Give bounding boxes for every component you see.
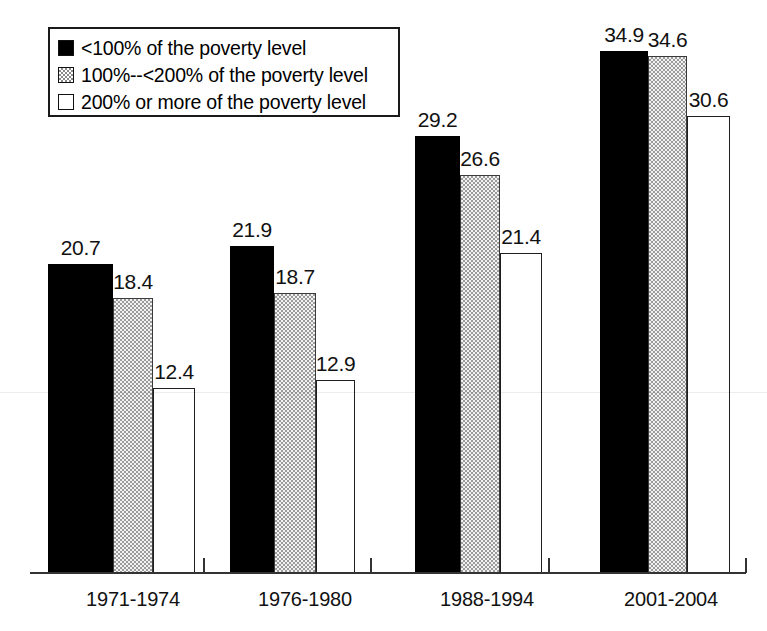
- x-axis-category-label: 1971-1974: [58, 588, 208, 610]
- bar-value-label: 12.4: [146, 361, 202, 383]
- chart-legend: <100% of the poverty level 100%--<200% o…: [48, 27, 400, 117]
- x-axis-tick: [370, 558, 372, 573]
- legend-item-label: <100% of the poverty level: [81, 38, 306, 58]
- bar-value-label: 29.2: [410, 109, 466, 131]
- legend-item-label: 100%--<200% of the poverty level: [81, 65, 368, 85]
- bar-value-label: 18.7: [267, 266, 323, 288]
- bar-1976-1980-series-2: [316, 380, 355, 573]
- bar-2001-2004-series-2: [687, 116, 730, 573]
- legend-item-100-to-200: 100%--<200% of the poverty level: [58, 61, 392, 88]
- bar-1971-1974-series-2: [153, 388, 195, 573]
- bar-1988-1994-series-0: [415, 136, 460, 573]
- black-filled-square-icon: [58, 40, 74, 56]
- dotted-pattern-square-icon: [58, 67, 74, 83]
- legend-item-label: 200% or more of the poverty level: [81, 92, 366, 112]
- bar-1988-1994-series-2: [500, 253, 542, 573]
- x-axis-line: [30, 572, 746, 574]
- bar-value-label: 18.4: [105, 271, 161, 293]
- bar-value-label: 21.9: [224, 219, 280, 241]
- white-outlined-square-icon: [58, 94, 74, 110]
- bar-value-label: 26.6: [452, 148, 508, 170]
- legend-item-below-100: <100% of the poverty level: [58, 34, 392, 61]
- x-axis-category-label: 2001-2004: [596, 588, 746, 610]
- bar-value-label: 30.6: [681, 89, 737, 111]
- x-axis-tick: [548, 558, 550, 573]
- bar-value-label: 21.4: [493, 226, 549, 248]
- bar-1971-1974-series-1: [113, 298, 153, 573]
- bar-value-label: 20.7: [53, 237, 109, 259]
- bar-1976-1980-series-0: [230, 246, 274, 573]
- bar-value-label: 34.6: [640, 29, 696, 51]
- bar-chart: <100% of the poverty level 100%--<200% o…: [0, 0, 767, 631]
- bar-1971-1974-series-0: [48, 264, 113, 573]
- x-axis-category-label: 1988-1994: [412, 588, 562, 610]
- bar-1976-1980-series-1: [274, 293, 316, 573]
- x-axis-tick: [745, 558, 747, 573]
- x-axis-tick: [203, 558, 205, 573]
- x-axis-category-label: 1976-1980: [230, 588, 380, 610]
- bar-value-label: 12.9: [308, 353, 364, 375]
- bar-2001-2004-series-0: [600, 51, 648, 573]
- legend-item-200-or-more: 200% or more of the poverty level: [58, 88, 392, 115]
- bar-2001-2004-series-1: [648, 56, 687, 573]
